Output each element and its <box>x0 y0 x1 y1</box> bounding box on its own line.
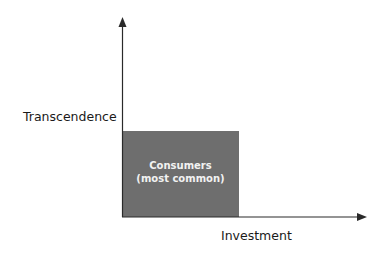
x-axis-arrow-icon <box>357 213 367 221</box>
y-axis-arrow-icon <box>119 17 127 27</box>
region-label: Consumers (most common) <box>122 159 239 185</box>
region-subtitle: (most common) <box>122 172 239 185</box>
diagram-canvas <box>0 0 386 256</box>
region-title: Consumers <box>122 159 239 172</box>
x-axis-label: Investment <box>221 228 292 243</box>
y-axis-label: Transcendence <box>23 109 117 124</box>
